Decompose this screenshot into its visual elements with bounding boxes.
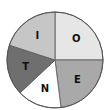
- pie-label-o: O: [72, 33, 81, 44]
- pie-chart: OENTI: [0, 0, 109, 110]
- pie-label-n: N: [41, 83, 49, 94]
- pie-label-e: E: [74, 74, 81, 85]
- pie-label-t: T: [22, 61, 29, 72]
- pie-label-i: I: [35, 30, 39, 41]
